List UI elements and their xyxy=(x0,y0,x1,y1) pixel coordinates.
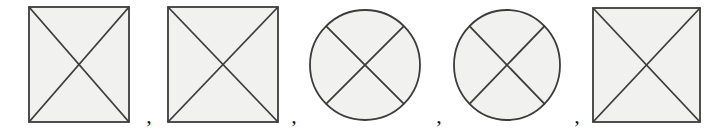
comma-separator-1: , xyxy=(146,103,152,128)
shape-sequence-canvas: ,,,, xyxy=(0,0,718,130)
square-with-x-1 xyxy=(29,7,129,122)
shapes-layer xyxy=(29,7,700,122)
circle-with-x-1 xyxy=(310,10,420,120)
circle-with-x-2 xyxy=(454,10,560,120)
square-with-x-3 xyxy=(593,8,700,122)
square-with-x-2 xyxy=(168,7,278,122)
comma-separator-4: , xyxy=(574,103,580,128)
comma-separator-3: , xyxy=(436,103,442,128)
shape-sequence-figure: ,,,, xyxy=(0,0,718,130)
comma-separator-2: , xyxy=(291,103,297,128)
